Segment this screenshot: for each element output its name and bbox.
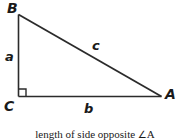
caption-angle-name: A xyxy=(147,128,155,140)
side-c-line xyxy=(19,15,162,97)
figure-caption: length of side opposite ∠A xyxy=(0,128,190,140)
vertex-label-c: C xyxy=(4,99,14,113)
side-label-b: b xyxy=(84,102,93,115)
caption-text: length of side opposite xyxy=(35,128,138,140)
right-angle-icon xyxy=(19,89,27,97)
vertex-label-a: A xyxy=(165,87,176,101)
right-triangle-figure: B C A a b c length of side opposite ∠A xyxy=(0,0,190,140)
vertex-label-b: B xyxy=(7,1,18,15)
triangle-drawing xyxy=(0,0,190,140)
side-label-a: a xyxy=(5,50,14,63)
side-label-c: c xyxy=(92,39,100,52)
angle-symbol-icon: ∠ xyxy=(138,129,147,140)
